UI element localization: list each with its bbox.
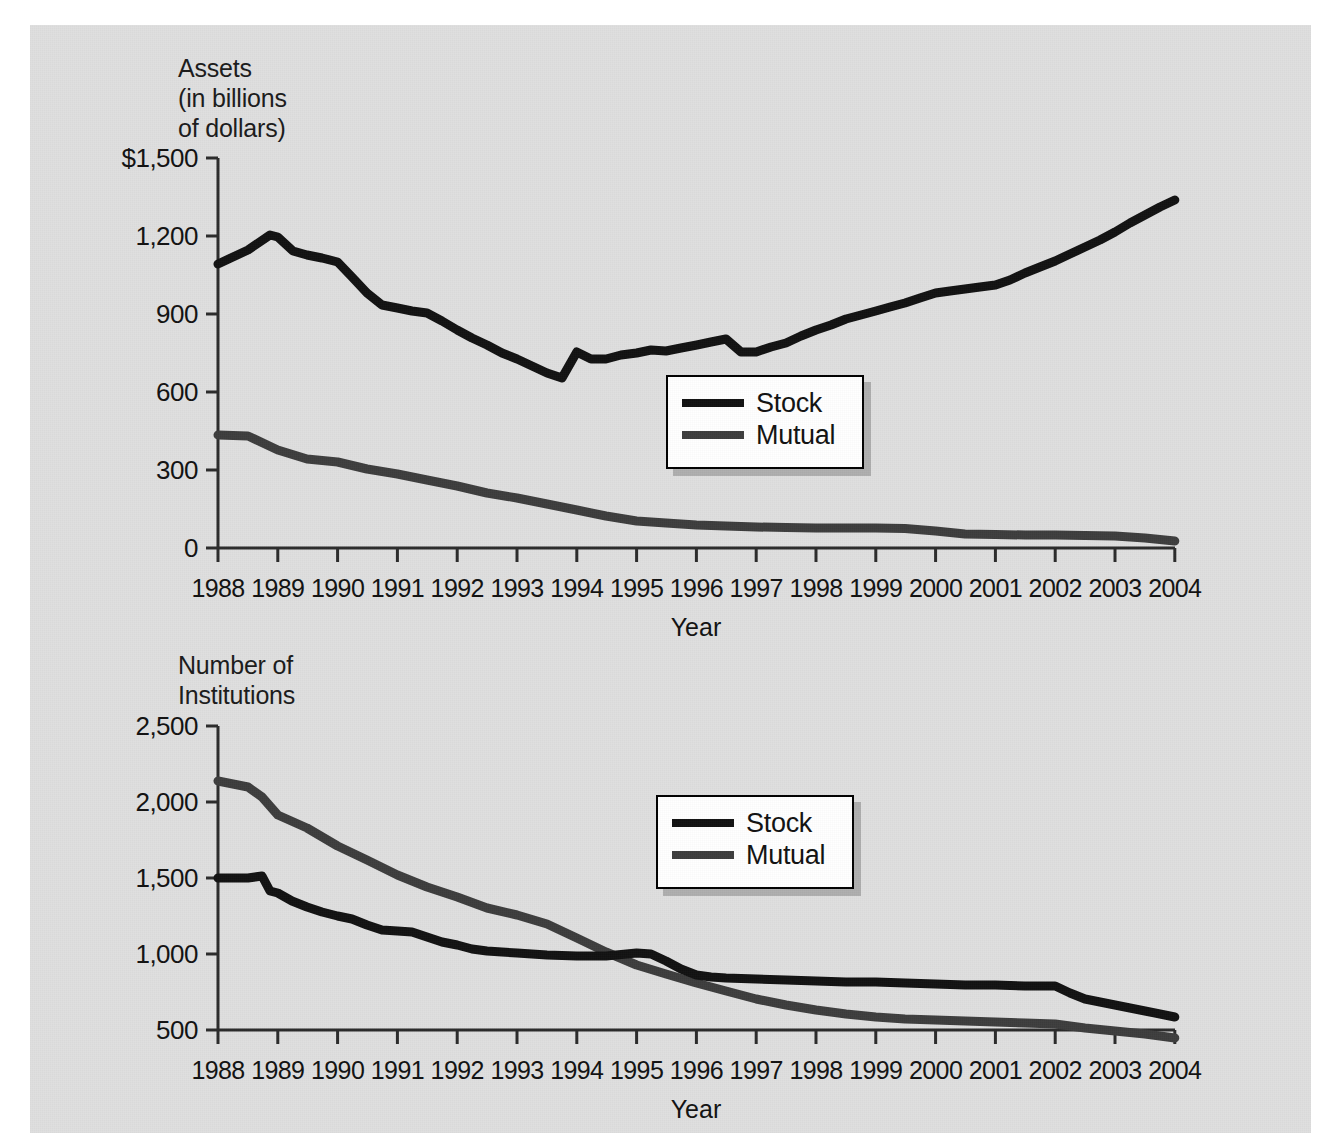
institutions-xtick-label: 1992 [431, 1056, 484, 1085]
assets-xtick-label: 1990 [311, 574, 364, 603]
institutions-legend: Stock Mutual [656, 795, 854, 889]
assets-xtick-marks [218, 548, 1175, 562]
institutions-xaxis-label: Year [671, 1095, 722, 1124]
assets-chart: Assets(in billionsof dollars) $1,500 1,2… [30, 25, 1311, 625]
assets-xtick-label: 1995 [610, 574, 663, 603]
institutions-xtick-marks [218, 1030, 1175, 1044]
legend-swatch-stock [682, 399, 744, 407]
institutions-xtick-label: 1991 [371, 1056, 424, 1085]
institutions-xtick-label: 2003 [1088, 1056, 1141, 1085]
assets-series-stock [218, 200, 1175, 378]
assets-xtick-label: 2004 [1148, 574, 1201, 603]
institutions-xtick-label: 1998 [789, 1056, 842, 1085]
legend-label-stock: Stock [756, 390, 822, 417]
assets-xtick-label: 2002 [1029, 574, 1082, 603]
institutions-xtick-label: 2000 [909, 1056, 962, 1085]
institutions-xtick-label: 1995 [610, 1056, 663, 1085]
assets-plot [30, 25, 1311, 625]
institutions-xtick-label: 1996 [670, 1056, 723, 1085]
assets-ytick-marks [206, 158, 218, 548]
institutions-xtick-label: 1997 [730, 1056, 783, 1085]
assets-axis-lines [218, 158, 1175, 548]
institutions-xtick-label: 2002 [1029, 1056, 1082, 1085]
assets-xtick-label: 1991 [371, 574, 424, 603]
legend-item-stock: Stock [682, 387, 842, 419]
assets-xtick-label: 1998 [789, 574, 842, 603]
assets-xtick-label: 1994 [550, 574, 603, 603]
legend-label-mutual: Mutual [746, 842, 825, 869]
institutions-xtick-label: 1994 [550, 1056, 603, 1085]
figure-panel: Assets(in billionsof dollars) $1,500 1,2… [30, 25, 1311, 1133]
assets-xtick-label: 2003 [1088, 574, 1141, 603]
legend-item-stock: Stock [672, 807, 832, 839]
assets-xtick-label: 2000 [909, 574, 962, 603]
assets-xtick-label: 1997 [730, 574, 783, 603]
legend-swatch-mutual [682, 431, 744, 439]
institutions-xtick-label: 1993 [490, 1056, 543, 1085]
assets-xtick-label: 1988 [191, 574, 244, 603]
legend-label-mutual: Mutual [756, 422, 835, 449]
assets-xtick-label: 1999 [849, 574, 902, 603]
institutions-xtick-label: 1999 [849, 1056, 902, 1085]
legend-swatch-stock [672, 819, 734, 827]
assets-xtick-label: 2001 [969, 574, 1022, 603]
legend-item-mutual: Mutual [672, 839, 832, 871]
institutions-xtick-label: 1988 [191, 1056, 244, 1085]
assets-xtick-label: 1989 [251, 574, 304, 603]
legend-item-mutual: Mutual [682, 419, 842, 451]
institutions-xtick-label: 2001 [969, 1056, 1022, 1085]
legend-label-stock: Stock [746, 810, 812, 837]
legend-swatch-mutual [672, 851, 734, 859]
assets-xtick-label: 1993 [490, 574, 543, 603]
institutions-series-stock [218, 876, 1175, 1017]
assets-legend: Stock Mutual [666, 375, 864, 469]
institutions-xtick-label: 1990 [311, 1056, 364, 1085]
assets-xtick-label: 1992 [431, 574, 484, 603]
assets-xtick-label: 1996 [670, 574, 723, 603]
institutions-chart: Number ofInstitutions 2,500 2,000 1,500 … [30, 625, 1311, 1133]
institutions-xtick-label: 1989 [251, 1056, 304, 1085]
institutions-xtick-label: 2004 [1148, 1056, 1201, 1085]
